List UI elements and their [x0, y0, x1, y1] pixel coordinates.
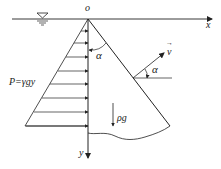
angle-label-top: α: [96, 50, 102, 61]
pressure-label: P=γgy: [9, 77, 35, 87]
dam-body: [88, 19, 170, 140]
angle-label-right: α: [152, 64, 158, 75]
y-axis-label: y: [79, 148, 83, 158]
x-axis-label: x: [206, 20, 210, 30]
pressure-arrows: [26, 31, 88, 126]
weight-label: ρg: [117, 113, 127, 123]
diagram-canvas: o x y α α v → ρg P=γgy: [0, 0, 221, 169]
origin-label: o: [85, 3, 90, 13]
velocity-arrow-accent: →: [166, 40, 173, 47]
pressure-distribution: [25, 19, 88, 126]
velocity-label: v: [167, 47, 171, 57]
